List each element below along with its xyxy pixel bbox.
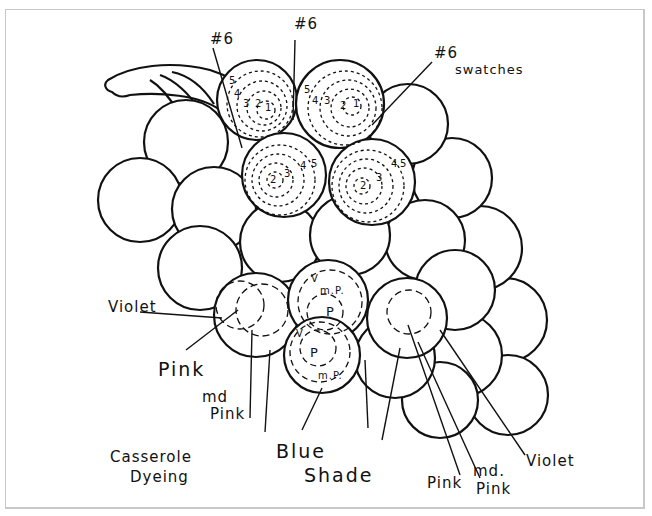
g2-num-2: 2 xyxy=(340,100,347,111)
label-pink-left-2: Pink xyxy=(210,405,245,423)
g1-num-5: 5 xyxy=(229,75,236,86)
label-top-left-6: #6 xyxy=(210,30,234,48)
upper-p-mark: P xyxy=(326,304,335,319)
label-violet-right: Violet xyxy=(526,452,575,470)
g4-num-4: 4 xyxy=(391,158,398,169)
grape-cluster-drawing xyxy=(0,0,652,516)
label-swatches: swatches xyxy=(455,62,524,77)
g3-num-5: 5 xyxy=(311,158,318,169)
g2-num-4: 4 xyxy=(312,95,319,106)
label-shade: Shade xyxy=(304,464,374,486)
g3-num-3: 3 xyxy=(284,168,291,179)
upper-mp-mark: m.P. xyxy=(320,285,345,296)
label-pink-right-2: Pink xyxy=(476,480,511,498)
g1-num-1: 1 xyxy=(265,102,272,113)
label-top-center-6: #6 xyxy=(294,15,318,33)
g4-num-2: 2 xyxy=(360,180,367,191)
label-violet-left: Violet xyxy=(108,298,157,316)
lower-mp-mark: m.P. xyxy=(318,370,343,381)
g3-num-2: 2 xyxy=(270,174,277,185)
lower-p-mark: P xyxy=(310,345,319,360)
g3-num-4: 4 xyxy=(300,160,307,171)
g2-num-3: 3 xyxy=(324,95,331,106)
label-pink-right: Pink xyxy=(427,474,462,492)
g2-num-1: 1 xyxy=(353,98,360,109)
label-md-left: md xyxy=(202,388,228,406)
g1-num-4: 4 xyxy=(234,88,241,99)
g1-num-3: 3 xyxy=(243,98,250,109)
lower-v-mark: V xyxy=(296,328,304,339)
g2-num-5: 5 xyxy=(304,84,311,95)
g1-num-2: 2 xyxy=(255,98,262,109)
label-dyeing: Dyeing xyxy=(130,468,189,486)
g4-num-3: 3 xyxy=(376,172,383,183)
g4-num-5: 5 xyxy=(400,158,407,169)
upper-v-mark: V xyxy=(311,273,319,284)
label-pink-left: Pink xyxy=(158,358,205,380)
label-top-right-6: #6 xyxy=(434,44,458,62)
label-md-right: md. xyxy=(473,462,505,480)
label-blue: Blue xyxy=(276,440,326,462)
label-casserole: Casserole xyxy=(110,448,192,466)
